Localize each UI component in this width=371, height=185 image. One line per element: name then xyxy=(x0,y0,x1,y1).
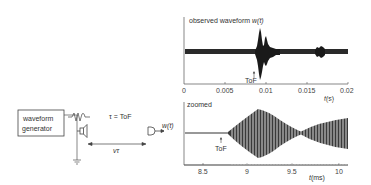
top-tof-label: ToF xyxy=(245,77,257,84)
top-tick-3: 0.015 xyxy=(298,87,316,94)
generator-label-line2: generator xyxy=(22,125,53,133)
top-plot-title: observed waveform w(t) xyxy=(189,17,264,25)
tau-label: τ = ToF xyxy=(109,113,131,120)
bottom-plot-title: zoomed xyxy=(187,101,212,108)
generator-label-line1: waveform xyxy=(22,115,54,122)
top-x-label: t(s) xyxy=(324,95,334,103)
distance-arrow xyxy=(88,143,146,146)
top-plot: observed waveform w(t) ToF 0 0.005 0.01 … xyxy=(182,17,354,103)
bottom-tick-1: 9 xyxy=(245,168,249,175)
speaker-icon xyxy=(77,125,87,138)
bottom-x-label: t(ms) xyxy=(309,174,325,182)
main-burst xyxy=(255,28,280,80)
receiver-label: w(t) xyxy=(162,122,174,130)
distance-label: vτ xyxy=(113,147,120,154)
top-tick-2: 0.01 xyxy=(259,87,273,94)
ground-icon xyxy=(73,160,81,164)
top-tick-0: 0 xyxy=(182,87,186,94)
bottom-tick-0: 8.5 xyxy=(198,168,208,175)
bottom-tof-label: ToF xyxy=(215,145,227,152)
waveform-generator-box xyxy=(18,110,64,136)
bottom-tick-2: 9.5 xyxy=(287,168,297,175)
signal-wave-icon xyxy=(68,113,90,121)
echo-burst xyxy=(315,46,325,58)
bottom-tick-3: 10 xyxy=(335,168,343,175)
bottom-plot: zoomed xyxy=(184,100,348,182)
figure: waveform generator τ = ToF vτ xyxy=(0,0,371,185)
top-tick-4: 0.02 xyxy=(340,87,354,94)
schematic: waveform generator τ = ToF vτ xyxy=(18,110,174,164)
top-tick-1: 0.005 xyxy=(216,87,234,94)
